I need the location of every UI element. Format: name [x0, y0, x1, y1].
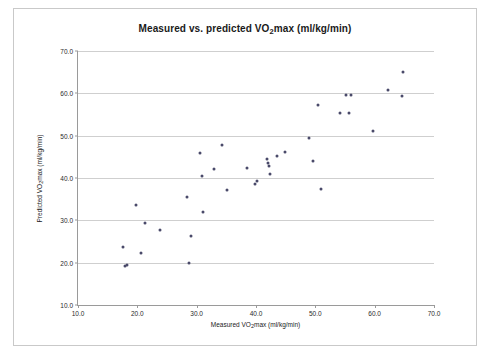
scatter-point [185, 196, 188, 199]
x-tick-mark [315, 305, 316, 308]
x-axis-title: Measured VO2max (ml/kg/min) [77, 321, 434, 329]
y-axis-title: Predicted VO2max (ml/kg/min) [36, 51, 48, 306]
scatter-point [400, 95, 403, 98]
y-axis-title-subscript: 2 [38, 181, 44, 184]
y-tick-mark [75, 178, 78, 179]
scatter-point [269, 172, 272, 175]
x-tick-mark [197, 305, 198, 308]
y-axis-title-pre: Predicted VO [36, 184, 43, 223]
x-tick-mark [434, 305, 435, 308]
x-tick-label: 50.0 [309, 310, 322, 317]
y-gridline [78, 136, 434, 137]
x-tick-mark [375, 305, 376, 308]
y-tick-mark [75, 93, 78, 94]
scatter-point [135, 204, 138, 207]
y-gridline [78, 263, 434, 264]
y-tick-label: 30.0 [60, 217, 73, 224]
chart-title-post: max (ml/kg/min) [274, 23, 352, 34]
y-tick-label: 60.0 [60, 90, 73, 97]
chart-title-pre: Measured vs. predicted VO [139, 23, 270, 34]
y-tick-label: 10.0 [60, 302, 73, 309]
y-gridline [78, 93, 434, 94]
scatter-point [159, 228, 162, 231]
scatter-point [339, 111, 342, 114]
y-tick-label: 50.0 [60, 132, 73, 139]
scatter-point [268, 164, 271, 167]
x-tick-mark [256, 305, 257, 308]
y-tick-mark [75, 220, 78, 221]
scatter-point [255, 180, 258, 183]
scatter-point [265, 157, 268, 160]
y-tick-label: 70.0 [60, 48, 73, 55]
y-tick-mark [75, 135, 78, 136]
x-tick-label: 10.0 [72, 310, 85, 317]
y-gridline [78, 220, 434, 221]
scatter-point [225, 188, 228, 191]
scatter-point [199, 152, 202, 155]
scatter-point [139, 251, 142, 254]
x-axis-title-post: max (ml/kg/min) [254, 321, 300, 328]
scatter-point [311, 160, 314, 163]
scatter-point [187, 261, 190, 264]
scatter-point [275, 154, 278, 157]
x-tick-label: 60.0 [368, 310, 381, 317]
chart-container: Measured vs. predicted VO2max (ml/kg/min… [13, 8, 477, 346]
y-tick-mark [75, 262, 78, 263]
x-axis-title-pre: Measured VO [211, 321, 251, 328]
scatter-point [201, 175, 204, 178]
scatter-point [349, 94, 352, 97]
scatter-point [202, 211, 205, 214]
chart-title: Measured vs. predicted VO2max (ml/kg/min… [14, 23, 476, 36]
plot-area: 10.020.030.040.050.060.070.010.020.030.0… [77, 51, 434, 306]
scatter-point [386, 88, 389, 91]
y-tick-mark [75, 51, 78, 52]
scatter-point [220, 143, 223, 146]
y-gridline [78, 178, 434, 179]
scatter-point [319, 187, 322, 190]
y-gridline [78, 51, 434, 52]
scatter-point [307, 136, 310, 139]
x-tick-label: 40.0 [250, 310, 263, 317]
y-axis-title-post: max (ml/kg/min) [36, 135, 43, 181]
y-tick-label: 20.0 [60, 259, 73, 266]
x-tick-mark [78, 305, 79, 308]
scatter-point [345, 94, 348, 97]
scatter-point [144, 222, 147, 225]
x-tick-label: 30.0 [190, 310, 203, 317]
scatter-point [347, 112, 350, 115]
scatter-point [125, 264, 128, 267]
x-tick-mark [137, 305, 138, 308]
y-tick-label: 40.0 [60, 175, 73, 182]
scatter-point [402, 71, 405, 74]
scatter-point [317, 103, 320, 106]
scatter-point [122, 246, 125, 249]
scatter-point [213, 167, 216, 170]
x-tick-label: 20.0 [131, 310, 144, 317]
scatter-point [372, 129, 375, 132]
x-tick-label: 70.0 [428, 310, 441, 317]
scatter-point [245, 166, 248, 169]
scatter-point [284, 151, 287, 154]
scatter-point [190, 235, 193, 238]
